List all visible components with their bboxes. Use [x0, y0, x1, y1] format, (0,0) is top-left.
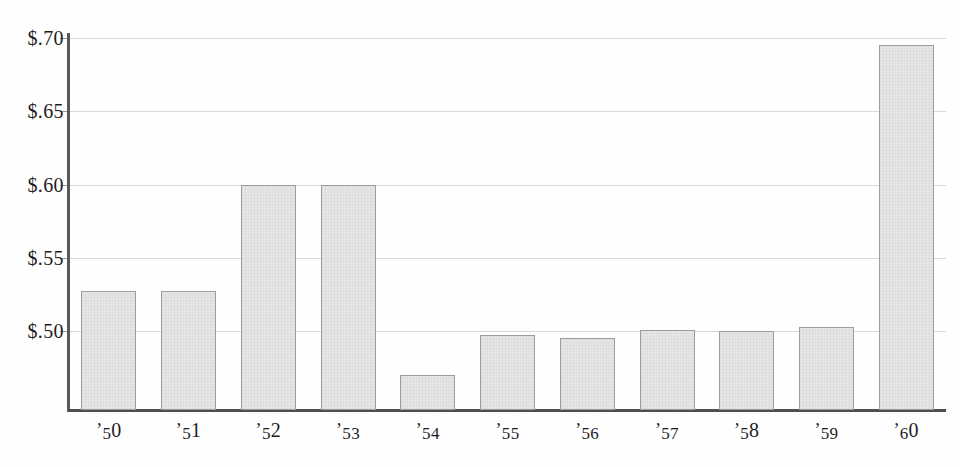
gridline-55	[69, 258, 946, 259]
x-tick-label-58: ’58	[707, 420, 787, 442]
x-tick-label-52: ’52	[228, 420, 308, 442]
x-tick-label-54: ’54	[388, 420, 468, 442]
y-tick-label: $.60	[2, 175, 64, 195]
x-tick-label-55: ’55	[468, 420, 548, 442]
bar-53	[321, 185, 376, 411]
x-tick-label-60: ’60	[866, 420, 946, 442]
x-tick-label-50: ’50	[69, 420, 149, 442]
x-tick-label-56: ’56	[547, 420, 627, 442]
x-tick-label-57: ’57	[627, 420, 707, 442]
gridline-70	[69, 38, 946, 39]
y-tick-label: $.65	[2, 101, 64, 121]
y-tick-label: $.55	[2, 248, 64, 268]
bar-59	[799, 327, 854, 410]
x-tick-label-59: ’59	[786, 420, 866, 442]
x-tick-label-53: ’53	[308, 420, 388, 442]
bar-50	[81, 291, 136, 410]
gridline-65	[69, 111, 946, 112]
bar-51	[161, 291, 216, 410]
bar-chart: $.70$.65$.60$.55$.50 ’50’51’52’53’54’55’…	[0, 0, 960, 467]
bar-60	[879, 45, 934, 410]
bar-55	[480, 335, 535, 410]
bar-54	[400, 375, 455, 410]
bar-52	[241, 185, 296, 411]
y-tick-label: $.50	[2, 321, 64, 341]
x-tick-label-51: ’51	[149, 420, 229, 442]
y-axis-line	[67, 33, 70, 412]
gridline-60	[69, 185, 946, 186]
bar-57	[640, 330, 695, 411]
y-tick-label: $.70	[2, 28, 64, 48]
bar-58	[719, 331, 774, 410]
bar-56	[560, 338, 615, 410]
